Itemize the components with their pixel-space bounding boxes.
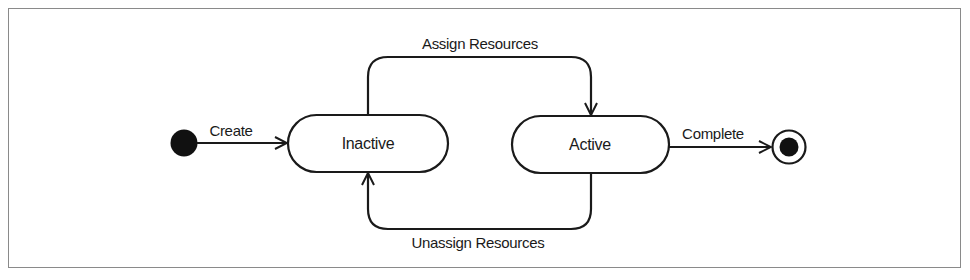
transition-label-complete: Complete	[682, 125, 744, 142]
transition-assign-resources[interactable]: Assign Resources	[368, 35, 591, 115]
state-active[interactable]: Active	[512, 116, 669, 173]
initial-state[interactable]	[171, 130, 198, 157]
transition-complete[interactable]: Complete	[669, 125, 771, 147]
state-diagram: Create Inactive Active Assign Resources …	[0, 0, 970, 280]
state-inactive[interactable]: Inactive	[288, 115, 448, 172]
transition-create[interactable]: Create	[197, 122, 287, 143]
transition-unassign-resources[interactable]: Unassign Resources	[368, 173, 591, 251]
state-label-inactive: Inactive	[342, 135, 395, 152]
final-state[interactable]	[773, 131, 806, 164]
transition-label-unassign-resources: Unassign Resources	[412, 234, 545, 251]
transition-label-assign-resources: Assign Resources	[422, 35, 538, 52]
state-label-active: Active	[569, 136, 611, 153]
transition-label-create: Create	[209, 122, 252, 139]
